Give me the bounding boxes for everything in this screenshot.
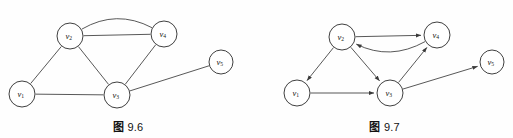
- node-v1: v1: [9, 81, 35, 107]
- node-v2: v2: [57, 23, 83, 49]
- figure-caption: 图 9.6: [0, 118, 256, 134]
- edge-v1-v2: [31, 46, 62, 83]
- figure-9-6: v1v2v3v4v5 图 9.6: [0, 0, 256, 138]
- edge-v3-v4: [125, 45, 155, 84]
- figure-caption: 图 9.7: [256, 118, 513, 134]
- caption-number: 9.6: [128, 121, 144, 133]
- node-layer: v1v2v3v4v5: [9, 21, 233, 108]
- graph-undirected-svg: v1v2v3v4v5: [0, 0, 256, 112]
- edge-v3-v5: [403, 66, 478, 89]
- node-v5: v5: [480, 50, 504, 74]
- node-v3: v3: [377, 80, 403, 106]
- edge-v4-v2: [356, 42, 425, 52]
- caption-label: 图: [369, 121, 380, 134]
- edge-v1-v3: [36, 94, 104, 95]
- node-v2: v2: [329, 24, 355, 50]
- node-v1: v1: [284, 80, 310, 106]
- caption-number: 9.7: [384, 121, 400, 133]
- edge-v2-v1: [307, 48, 333, 81]
- node-v4: v4: [424, 22, 450, 48]
- node-v4: v4: [151, 21, 177, 47]
- figure-page: v1v2v3v4v5 图 9.6 v1v2v3v4v5 图 9.7: [0, 0, 513, 138]
- edge-v2-v4: [84, 34, 151, 35]
- edge-v3-v5: [130, 66, 209, 91]
- graph-directed-svg: v1v2v3v4v5: [256, 0, 513, 112]
- edge-v3-v4: [399, 47, 427, 82]
- edge-v2-v3: [78, 47, 108, 85]
- edge-v2-v4: [82, 19, 152, 29]
- figure-9-7: v1v2v3v4v5 图 9.7: [256, 0, 513, 138]
- node-v3: v3: [104, 82, 130, 108]
- edge-v2-v3: [351, 47, 380, 81]
- node-v5: v5: [209, 50, 233, 74]
- edge-v2-v4: [356, 35, 421, 36]
- caption-label: 图: [113, 121, 124, 134]
